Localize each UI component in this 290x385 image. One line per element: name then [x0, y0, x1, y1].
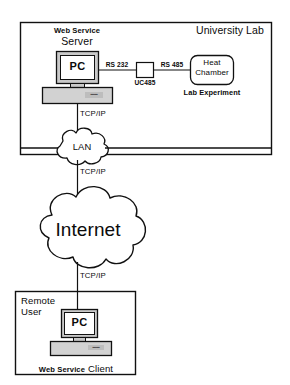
uc485-label: UC485: [134, 80, 155, 87]
heat-chamber-line1: Heat: [203, 59, 220, 67]
server-caption-large: Server: [61, 36, 93, 47]
tcpip-label-server-lan: TCP/IP: [80, 110, 106, 118]
rs232-label: RS 232: [106, 62, 129, 69]
tcpip-label-internet-client: TCP/IP: [80, 272, 106, 280]
uc485-converter-box: [137, 63, 154, 78]
client-keyboard-logo: ▬▬: [92, 346, 99, 350]
university-lab-title: University Lab: [196, 25, 264, 36]
tcpip-label-lan-internet: TCP/IP: [80, 168, 106, 176]
client-caption-large: Client: [88, 363, 113, 374]
lan-label: LAN: [73, 142, 92, 152]
rs485-label: RS 485: [161, 62, 184, 69]
internet-label: Internet: [55, 220, 120, 240]
client-pc-label: PC: [71, 317, 87, 328]
remote-user-title-line1: Remote: [21, 296, 55, 306]
diagram-vector-layer: [0, 0, 290, 385]
network-architecture-diagram: University Lab Web Service Server PC ▬▬ …: [0, 0, 290, 385]
heat-chamber-line2: Chamber: [195, 69, 229, 77]
client-caption-small: Web Service: [39, 365, 85, 374]
server-caption-small: Web Service: [54, 27, 100, 35]
server-pc-label: PC: [69, 61, 85, 72]
server-keyboard-logo: ▬▬: [90, 93, 97, 97]
remote-user-title-line2: User: [21, 307, 42, 317]
web-service-client-caption: Web ServiceClient: [39, 359, 113, 376]
lab-experiment-caption: Lab Experiment: [184, 89, 241, 97]
